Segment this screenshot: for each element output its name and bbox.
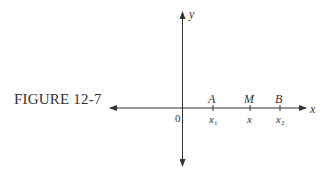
coord-x2-label: x2 xyxy=(275,113,285,127)
y-axis-label: y xyxy=(188,7,195,21)
origin-label: 0 xyxy=(175,112,181,124)
point-m-label: M xyxy=(243,92,255,106)
point-b-label: B xyxy=(275,92,283,106)
point-a-label: A xyxy=(207,92,216,106)
x-axis-label: x xyxy=(309,102,316,116)
coord-x1-label: x1 xyxy=(208,113,218,127)
coordinate-diagram: x y 0 A M B x1 x x2 xyxy=(0,0,333,179)
coord-x-label: x xyxy=(246,113,252,125)
